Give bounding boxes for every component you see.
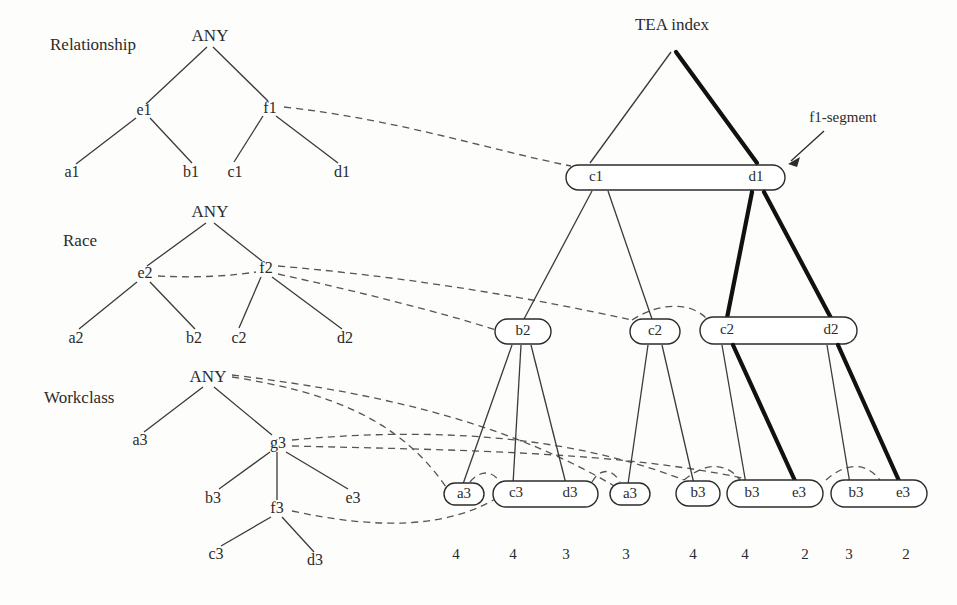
segment-cell-b3-2: b3 [745,484,760,500]
edge-g3-e3 [286,452,348,489]
edge-f1-c1 [234,116,263,162]
segment-cell-b3-3: b3 [849,484,864,500]
segment-cell-d1: d1 [749,168,764,184]
edge-any-e2 [147,223,206,266]
edge-c1-to-b2 [524,191,592,319]
node-a3: a3 [132,431,147,448]
dashed-link-any3-to-seg-a3-second [232,375,616,487]
edge-b2-to-d3 [531,345,566,484]
node-e2: e2 [137,264,152,281]
count-8: 3 [845,546,853,562]
dashed-link-f2-to-seg-c2 [278,266,632,320]
count-7: 2 [801,546,809,562]
node-d2: d2 [337,329,353,346]
tree-workclass: Workclass ANY a3 g3 b3 f3 e3 c3 d3 [44,367,361,568]
edge-f3-d3 [282,517,314,552]
dashed-link-g3-to-seg-b3 [292,434,684,480]
dashed-link-f2-to-seg-b2 [278,274,496,330]
node-d3: d3 [307,551,323,568]
segment-cell-c2-mid: c2 [648,322,662,338]
edge-e2-b2 [150,282,195,329]
node-relationship-any: ANY [192,26,229,45]
edge-d1-to-c2d2-right [764,192,831,318]
node-g3: g3 [270,434,286,452]
node-workclass-any: ANY [190,367,227,386]
count-5: 4 [689,546,697,562]
segment-box-l3-5[interactable] [727,480,823,507]
edge-b2-to-a3 [463,345,512,484]
edge-d2-to-e3 [838,345,900,483]
segment-cell-d3: d3 [563,484,578,500]
annotation-f1-segment: f1-segment [809,109,877,125]
segment-cell-c2-right: c2 [720,321,734,337]
dashed-link-f1-to-seg-l1 [284,107,571,166]
dashed-link-seg-c2-to-seg-c2d2 [632,306,706,320]
node-b2: b2 [186,329,202,346]
node-b1: b1 [183,163,199,180]
annotation-arrow-line [791,131,824,161]
segment-cell-a3-2: a3 [623,485,637,501]
edge-root-to-c1 [590,52,671,163]
edge-f2-d2 [272,277,342,329]
edge-f1-d1 [276,116,338,163]
node-c3: c3 [208,545,223,562]
node-b3: b3 [205,489,221,506]
edge-c2mid-to-b3 [662,345,694,484]
tree-relationship: Relationship ANY e1 f1 a1 b1 c1 d1 [50,26,350,180]
node-f1: f1 [263,99,276,116]
figure-canvas: Relationship ANY e1 f1 a1 b1 c1 d1 Race … [0,0,957,605]
tree-title-race: Race [63,231,97,250]
node-race-any: ANY [192,202,229,221]
dashed-link-seg-b3e3-to-last [826,467,880,481]
tree-title-relationship: Relationship [50,35,136,54]
node-f2: f2 [259,259,272,276]
edge-c1-to-c2 [608,191,652,319]
dashed-link-any3-to-seg-a3 [232,377,446,487]
node-c1: c1 [227,163,242,180]
node-a1: a1 [64,163,79,180]
dashed-link-e2-to-f2 [158,272,256,277]
segment-cell-e3-1: e3 [792,484,806,500]
segment-cell-b3-1: b3 [691,484,706,500]
count-9: 2 [902,546,910,562]
edge-any-f2 [214,223,262,261]
tea-index: TEA index c1 d1 f1-segment b2 c2 c2 [444,15,927,563]
segment-box-l3-6[interactable] [831,480,927,507]
segment-cell-a3-1: a3 [457,485,471,501]
segment-cell-d2-right: d2 [824,321,839,337]
dashed-link-g3-to-seg-b3e3-second [292,446,742,478]
edge-any-g3 [214,387,272,435]
edge-e2-a2 [79,282,137,329]
edge-b2-to-c3 [513,345,521,484]
tea-index-diagram: Relationship ANY e1 f1 a1 b1 c1 d1 Race … [0,0,957,605]
count-4: 3 [622,546,630,562]
edge-any-f1 [213,47,268,101]
count-2: 4 [509,546,517,562]
segment-cell-b2: b2 [516,322,531,338]
node-d1: d1 [334,163,350,180]
edge-f2-c2 [239,277,261,328]
edge-any-a3 [144,387,203,432]
node-f3: f3 [270,499,283,516]
count-6: 4 [741,546,749,562]
dashed-link-seg-a3-to-seg-c3d3 [470,473,500,482]
segment-cell-e3-2: e3 [896,484,910,500]
count-3: 3 [562,546,570,562]
edge-e1-a1 [76,118,136,164]
node-c2: c2 [231,329,246,346]
node-a2: a2 [68,329,83,346]
edge-e1-b1 [150,118,192,163]
edge-g3-b3 [219,452,270,489]
edge-d1-to-c2d2-left [727,192,752,318]
edge-root-to-d1 [676,52,757,163]
dashed-link-seg-c3d3-to-seg-a3 [592,472,620,483]
node-e1: e1 [136,101,151,118]
segment-cell-c1: c1 [589,168,603,184]
segment-cell-c3: c3 [509,484,523,500]
tree-title-workclass: Workclass [44,388,114,407]
edge-any-e1 [146,47,207,104]
count-1: 4 [452,546,460,562]
tea-index-title: TEA index [635,15,710,34]
tree-race: Race ANY e2 f2 a2 b2 c2 d2 [63,202,353,346]
edge-f3-c3 [221,517,271,546]
